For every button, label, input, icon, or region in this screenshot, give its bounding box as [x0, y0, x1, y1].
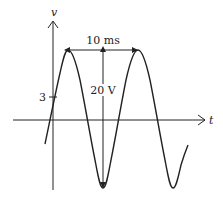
- peak-to-peak-label: 20 V: [90, 84, 116, 97]
- waveform-diagram: v t 3 10 ms 20 V: [0, 0, 223, 204]
- tick-label: 3: [39, 91, 46, 104]
- horizontal-axis-label: t: [209, 114, 214, 127]
- horizontal-axis: [13, 115, 205, 125]
- vertical-axis-label: v: [51, 6, 58, 19]
- period-label: 10 ms: [86, 34, 120, 47]
- sine-waveform: [45, 50, 188, 188]
